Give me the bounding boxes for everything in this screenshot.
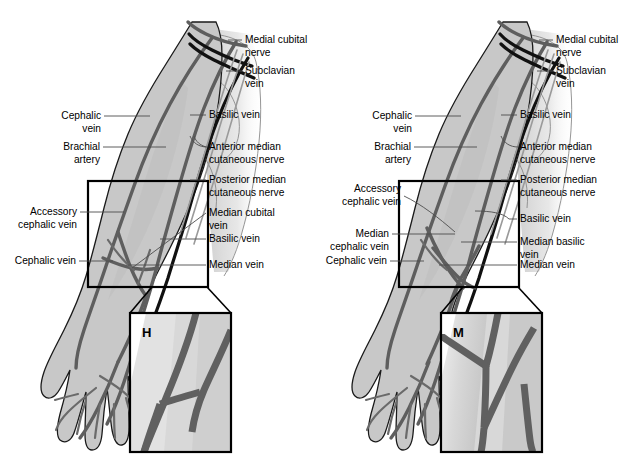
label-subclavian-vein-line2: vein xyxy=(556,78,575,89)
label-posterior-median-cutaneous-nerve-line1: Posterior median xyxy=(209,174,286,185)
label-subclavian-vein-line1: Subclavian xyxy=(556,65,606,76)
label-anterior-median-cutaneous-nerve-line1: Anterior median xyxy=(209,141,281,152)
label-accessory-cephalic-vein-line2: cephalic vein xyxy=(18,219,77,230)
label-median-cubital-vein-line2: vein xyxy=(209,220,228,231)
label-posterior-median-cutaneous-nerve-line2: cutaneous nerve xyxy=(209,187,285,198)
label-cephalic-vein-upper-line1: Cephalic xyxy=(372,110,412,121)
label-median-cephalic-vein-line1: Median xyxy=(356,228,389,239)
label-median-vein: Median vein xyxy=(209,259,264,270)
label-posterior-median-cutaneous-nerve-line2: cutaneous nerve xyxy=(520,187,596,198)
right-panel: M Medial cubital nerve Subclavian vein B… xyxy=(326,22,618,452)
label-subclavian-vein-line1: Subclavian xyxy=(245,65,295,76)
label-cephalic-vein-upper-line2: vein xyxy=(393,123,412,134)
label-brachial-artery-line1: Brachial xyxy=(374,141,411,152)
label-median-basilic-vein-line1: Median basilic xyxy=(520,236,585,247)
digital-vein-3 xyxy=(425,404,426,438)
label-anterior-median-cutaneous-nerve-line2: cutaneous nerve xyxy=(209,154,285,165)
label-cephalic-vein-lower: Cephalic vein xyxy=(15,255,76,266)
inset-connector-right xyxy=(518,287,542,313)
label-accessory-cephalic-vein-line2: cephalic vein xyxy=(342,196,401,207)
inset-connector-right xyxy=(207,287,231,313)
label-brachial-artery-line1: Brachial xyxy=(63,141,100,152)
label-brachial-artery-line2: artery xyxy=(385,154,412,165)
label-anterior-median-cutaneous-nerve-line2: cutaneous nerve xyxy=(520,154,596,165)
label-cephalic-vein-upper-line2: vein xyxy=(82,123,101,134)
label-brachial-artery-line2: artery xyxy=(74,154,101,165)
label-medial-cubital-nerve-line1: Medial cubital xyxy=(245,34,307,45)
label-basilic-vein-lower: Basilic vein xyxy=(520,213,571,224)
upper-limb-venous-anatomy-svg: H Medial cubital nerve Subclavian vein B… xyxy=(0,0,622,462)
anatomical-figure: H Medial cubital nerve Subclavian vein B… xyxy=(0,0,622,462)
inset-letter-h: H xyxy=(142,325,151,340)
left-panel: H Medial cubital nerve Subclavian vein B… xyxy=(15,22,307,452)
label-posterior-median-cutaneous-nerve-line1: Posterior median xyxy=(520,174,597,185)
label-anterior-median-cutaneous-nerve-line1: Anterior median xyxy=(520,141,592,152)
label-medial-cubital-nerve-line1: Medial cubital xyxy=(556,34,618,45)
label-subclavian-vein-line2: vein xyxy=(245,78,264,89)
label-medial-cubital-nerve-line2: nerve xyxy=(245,47,271,58)
label-medial-cubital-nerve-line2: nerve xyxy=(556,47,582,58)
digital-vein-3 xyxy=(114,404,115,438)
label-median-cephalic-vein-line2: cephalic vein xyxy=(330,241,389,252)
label-basilic-vein-upper: Basilic vein xyxy=(520,109,571,120)
label-accessory-cephalic-vein-line1: Accessory xyxy=(354,183,402,194)
inset-letter-m: M xyxy=(453,325,464,340)
label-basilic-vein-upper: Basilic vein xyxy=(209,109,260,120)
label-cephalic-vein-upper-line1: Cephalic xyxy=(61,110,101,121)
label-basilic-vein-lower: Basilic vein xyxy=(209,233,260,244)
label-median-cubital-vein-line1: Median cubital xyxy=(209,207,275,218)
label-accessory-cephalic-vein-line1: Accessory xyxy=(30,206,78,217)
label-cephalic-vein-lower: Cephalic vein xyxy=(326,255,387,266)
label-median-vein: Median vein xyxy=(520,259,575,270)
